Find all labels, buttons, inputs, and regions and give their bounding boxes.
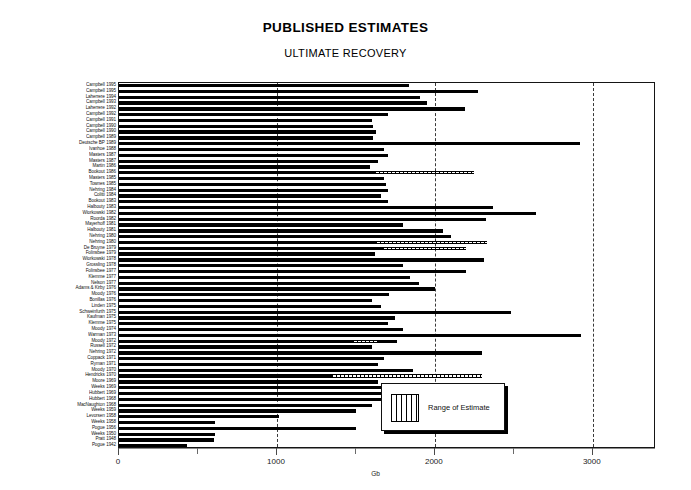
x-tick-label-2000: 2000: [404, 457, 464, 466]
bar-estimate: [119, 125, 373, 128]
category-label-name: Pogue: [92, 441, 105, 448]
x-axis-line: [118, 448, 655, 449]
x-minor-tick-1500: [355, 448, 356, 454]
bar-estimate: [119, 189, 388, 192]
bar-estimate: [119, 380, 378, 383]
x-tick-label-3000: 3000: [562, 457, 622, 466]
bar-estimate: [119, 171, 381, 174]
bar-estimate: [119, 305, 381, 308]
bar-estimate: [119, 229, 443, 232]
bar-estimate: [119, 96, 420, 99]
bar-estimate: [119, 433, 215, 436]
bar-range-of-estimate: [332, 374, 482, 377]
bar-estimate: [119, 287, 435, 290]
x-tick-1000: [276, 448, 277, 455]
bar-estimate: [119, 101, 427, 104]
bar-estimate: [119, 212, 536, 215]
bar-estimate: [119, 270, 466, 273]
legend: Range of Estimate: [381, 383, 505, 431]
bar-estimate: [119, 334, 581, 337]
chart-title: PUBLISHED ESTIMATES: [0, 20, 691, 35]
bar-estimate: [119, 316, 395, 319]
bar-estimate: [119, 299, 372, 302]
bar-estimate: [119, 107, 465, 110]
bar-range-of-estimate: [375, 171, 475, 174]
category-axis-labels: Campbell1995Campbell1995Laherrere1994Cam…: [0, 82, 118, 448]
bar-estimate: [119, 194, 381, 197]
bar-estimate: [119, 247, 395, 250]
x-axis-title: Gb: [0, 470, 691, 477]
bar-estimate: [119, 206, 493, 209]
bar-estimate: [119, 438, 214, 441]
bar-estimate: [119, 444, 187, 447]
bar-estimate: [119, 404, 372, 407]
x-tick-0: [118, 448, 119, 455]
bar-estimate: [119, 218, 486, 221]
bar-estimate: [119, 328, 403, 331]
chart-subtitle: ULTIMATE RECOVERY: [0, 47, 691, 59]
bar-estimate: [119, 264, 403, 267]
bar-estimate: [119, 223, 403, 226]
bar-estimate: [119, 154, 388, 157]
bar-estimate: [119, 252, 375, 255]
category-label: Pogue1942: [92, 441, 116, 449]
bar-estimate: [119, 363, 378, 366]
x-tick-2000: [434, 448, 435, 455]
chart-page: PUBLISHED ESTIMATES ULTIMATE RECOVERY Ca…: [0, 0, 691, 490]
legend-label: Range of Estimate: [428, 384, 490, 432]
bar-estimate: [119, 311, 511, 314]
x-minor-tick-500: [197, 448, 198, 454]
category-label-year: 1942: [106, 441, 116, 448]
bar-estimate: [119, 200, 388, 203]
bar-estimate: [119, 148, 384, 151]
x-minor-tick-2500: [513, 448, 514, 454]
bar-estimate: [119, 130, 376, 133]
bar-estimate: [119, 136, 373, 139]
bar-estimate: [119, 351, 482, 354]
bar-range-of-estimate: [376, 241, 487, 244]
bar-estimate: [119, 258, 484, 261]
bar-estimate: [119, 183, 386, 186]
bar-estimate: [119, 113, 388, 116]
bar-range-of-estimate: [353, 340, 378, 343]
bar-range-of-estimate: [383, 247, 467, 250]
bar-estimate: [119, 276, 410, 279]
bar-estimate: [119, 421, 215, 424]
bar-estimate: [119, 357, 384, 360]
x-axis-title-text: Gb: [371, 470, 380, 477]
x-tick-3000: [592, 448, 593, 455]
bar-estimate: [119, 119, 372, 122]
bar-estimate: [119, 84, 409, 87]
bar-estimate: [119, 427, 356, 430]
legend-swatch-range-of-estimate: [391, 394, 419, 422]
bar-estimate: [119, 177, 384, 180]
bar-estimate: [119, 90, 478, 93]
x-tick-label-0: 0: [88, 457, 148, 466]
bar-estimate: [119, 409, 356, 412]
bar-estimate: [119, 293, 389, 296]
x-tick-label-1000: 1000: [246, 457, 306, 466]
bar-estimate: [119, 235, 451, 238]
bar-estimate: [119, 282, 419, 285]
bar-estimate: [119, 415, 279, 418]
bar-estimate: [119, 369, 413, 372]
bar-estimate: [119, 160, 378, 163]
bar-estimate: [119, 165, 370, 168]
bar-estimate: [119, 322, 388, 325]
bar-estimate: [119, 142, 580, 145]
bar-estimate: [119, 345, 372, 348]
